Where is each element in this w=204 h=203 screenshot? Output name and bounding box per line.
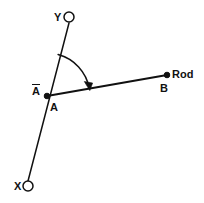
segment-line-xy [28,23,69,181]
angle-arc-yab [58,55,89,89]
point-marker-x [23,181,33,191]
diagram-graphics [0,0,204,203]
diagram-canvas: Y X A A Rod B [0,0,204,203]
segment-rod-ab [47,75,167,96]
label-point-a-bar: A [32,84,40,97]
label-point-x: X [14,181,21,192]
point-marker-a [44,93,50,99]
label-rod: Rod [172,69,193,80]
point-marker-y [64,12,74,22]
label-point-a: A [50,102,58,113]
label-point-b: B [160,83,168,94]
label-point-y: Y [54,12,61,23]
point-marker-b [164,72,170,78]
